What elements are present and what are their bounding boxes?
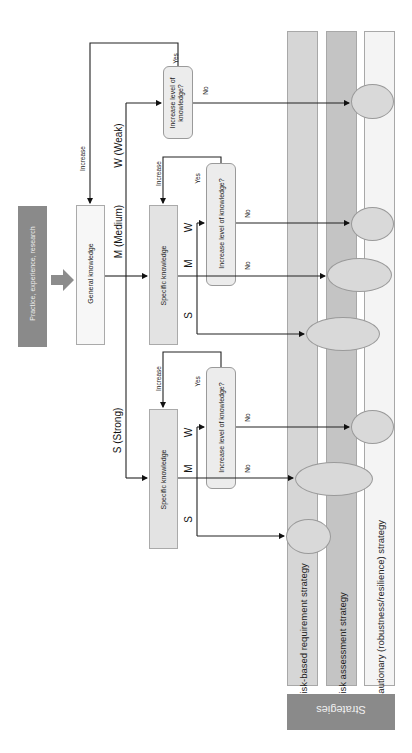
strong-yes-label: Yes xyxy=(194,367,201,397)
medium-s-label: S xyxy=(183,308,194,324)
medium-m-label: M xyxy=(183,256,194,272)
strong-no-m-label: No xyxy=(244,454,251,484)
strong-m-label: M xyxy=(183,461,194,477)
branch-medium-label: M (Medium) xyxy=(113,194,124,270)
medium-increase-label: Increase xyxy=(155,154,162,194)
strong-increase-label: Increase xyxy=(155,359,162,399)
weak-yes-label: Yes xyxy=(172,44,179,74)
branch-weak-label: W (Weak) xyxy=(113,116,124,176)
strong-w-label: W xyxy=(183,425,194,441)
general-increase-label: Increase xyxy=(79,139,86,179)
medium-w-label: W xyxy=(183,220,194,236)
medium-yes-label: Yes xyxy=(194,164,201,194)
medium-no-w-label: No xyxy=(244,199,251,229)
strong-s-label: S xyxy=(183,512,194,528)
medium-no-m-label: No xyxy=(244,251,251,281)
weak-no-label: No xyxy=(202,76,209,106)
connector-lines xyxy=(0,0,412,753)
strong-no-w-label: No xyxy=(244,403,251,433)
branch-strong-label: S (Strong) xyxy=(112,396,123,466)
